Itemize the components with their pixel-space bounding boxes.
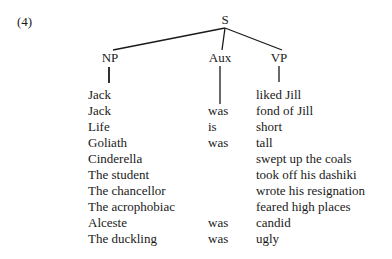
- vp-cell: fond of Jill: [256, 103, 313, 119]
- np-cell: Life: [88, 119, 110, 135]
- np-cell: Alceste: [88, 215, 127, 231]
- aux-cell: was: [208, 135, 228, 151]
- vp-cell: candid: [256, 215, 291, 231]
- vp-cell: feared high places: [256, 199, 351, 215]
- vp-cell: swept up the coals: [256, 151, 352, 167]
- vp-cell: tall: [256, 135, 273, 151]
- aux-cell: is: [208, 119, 217, 135]
- np-cell: Jack: [88, 103, 111, 119]
- np-cell: Jack: [88, 87, 111, 103]
- vp-cell: short: [256, 119, 282, 135]
- np-cell: The chancellor: [88, 183, 166, 199]
- vp-cell: ugly: [256, 231, 279, 247]
- np-cell: The duckling: [88, 231, 157, 247]
- vp-cell: took off his dashiki: [256, 167, 357, 183]
- np-cell: Cinderella: [88, 151, 142, 167]
- aux-cell: was: [208, 103, 228, 119]
- vp-cell: wrote his resignation: [256, 183, 365, 199]
- aux-cell: was: [208, 231, 228, 247]
- np-cell: The acrophobiac: [88, 199, 175, 215]
- aux-cell: was: [208, 215, 228, 231]
- tree-branches: [0, 0, 392, 259]
- np-cell: The student: [88, 167, 149, 183]
- vp-cell: liked Jill: [256, 87, 301, 103]
- np-cell: Goliath: [88, 135, 127, 151]
